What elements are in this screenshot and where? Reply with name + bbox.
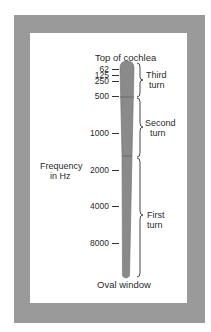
second-turn-brace — [137, 98, 143, 157]
cochlea-bar — [120, 61, 134, 278]
tick-mark — [112, 243, 119, 244]
top-of-cochlea-label: Top of cochlea — [95, 53, 156, 62]
tick-label: 8000 — [79, 239, 109, 247]
tick-mark — [112, 133, 119, 134]
first-turn-brace — [137, 158, 143, 277]
first-turn-label-line1: First — [147, 211, 165, 220]
tick-label: 4000 — [79, 202, 109, 210]
tick-label: 500 — [79, 92, 109, 100]
tick-label: 1000 — [79, 129, 109, 137]
axis-label-line1: Frequency — [40, 162, 83, 171]
tick-mark — [112, 81, 119, 82]
first-turn-label-line2: turn — [147, 221, 163, 230]
axis-label-line2: in Hz — [50, 172, 71, 181]
third-turn-label-line2: turn — [149, 81, 165, 90]
tick-label: 250 — [79, 77, 109, 85]
tick-mark — [112, 96, 119, 97]
tick-label: 2000 — [79, 166, 109, 174]
oval-window-label: Oval window — [97, 280, 151, 289]
tick-mark — [112, 170, 119, 171]
tick-mark — [112, 75, 119, 76]
third-turn-label-line1: Third — [146, 71, 167, 80]
second-turn-label-line1: Second — [145, 119, 176, 128]
tick-mark — [112, 206, 119, 207]
tick-mark — [112, 69, 119, 70]
third-turn-brace — [137, 63, 143, 97]
second-turn-label-line2: turn — [150, 129, 166, 138]
